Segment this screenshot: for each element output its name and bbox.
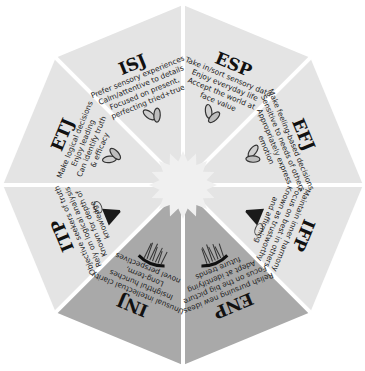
octagon-diagram: ISJ Prefer sensory experiences Calm/atte… [0, 0, 365, 371]
center-burst [149, 151, 217, 219]
